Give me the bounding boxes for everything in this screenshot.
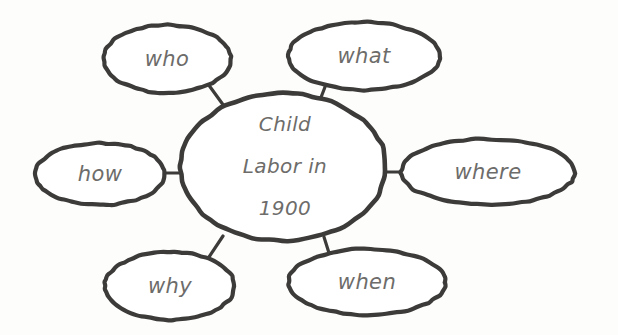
center-node[interactable]: Child Labor in 1900 bbox=[180, 93, 385, 242]
branch-label-what: what bbox=[337, 44, 391, 68]
branch-node-where[interactable]: where bbox=[400, 139, 575, 205]
branch-label-why: why bbox=[148, 274, 192, 298]
diagram-canvas-svg: who what where when why how Child Labor … bbox=[0, 0, 618, 335]
branch-node-how[interactable]: how bbox=[35, 143, 164, 205]
branch-node-what[interactable]: what bbox=[288, 22, 440, 91]
branch-label-who: who bbox=[145, 47, 190, 71]
branch-label-where: where bbox=[455, 160, 522, 184]
connector-when-center bbox=[324, 237, 329, 253]
branch-node-why[interactable]: why bbox=[105, 252, 235, 321]
branch-label-how: how bbox=[78, 162, 123, 186]
center-label-line-3: 1900 bbox=[259, 196, 312, 220]
concept-web-diagram: who what where when why how Child Labor … bbox=[0, 0, 618, 335]
connector-who-center bbox=[208, 84, 224, 106]
center-label-line-1: Child bbox=[259, 112, 311, 136]
branch-label-when: when bbox=[338, 270, 396, 294]
branch-node-when[interactable]: when bbox=[288, 249, 445, 316]
branch-node-who[interactable]: who bbox=[104, 24, 232, 93]
center-label-line-2: Labor in bbox=[243, 154, 327, 178]
connector-why-center bbox=[209, 236, 223, 257]
